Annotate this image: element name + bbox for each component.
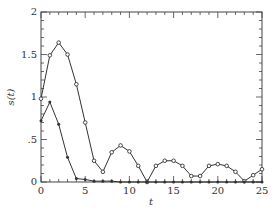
data-point: [207, 164, 211, 168]
data-point: [199, 181, 202, 184]
data-point: [216, 162, 220, 166]
data-series: [39, 41, 264, 184]
data-point: [261, 181, 264, 184]
data-point: [119, 181, 122, 184]
data-point: [181, 181, 184, 184]
data-point: [75, 82, 79, 86]
data-point: [57, 41, 61, 45]
data-point: [83, 121, 87, 125]
data-point: [128, 181, 131, 184]
x-tick-label: 5: [82, 185, 88, 196]
axis-ticks: 05101520250.511.52: [21, 6, 268, 196]
data-point: [181, 164, 185, 168]
data-point: [163, 159, 167, 163]
x-tick-label: 10: [123, 185, 136, 196]
data-point: [119, 144, 123, 148]
data-point: [225, 164, 229, 168]
data-point: [172, 181, 175, 184]
data-point: [48, 101, 51, 104]
plot-frame: [41, 12, 262, 182]
y-tick-label: 0: [31, 176, 37, 187]
line-chart: 05101520250.511.52 t s(t): [0, 0, 275, 211]
data-point: [92, 159, 96, 163]
data-point: [93, 180, 96, 183]
data-point: [48, 54, 52, 58]
data-point: [190, 181, 193, 184]
x-tick-label: 20: [211, 185, 224, 196]
y-tick-label: .5: [27, 134, 37, 145]
y-tick-label: 2: [31, 6, 37, 17]
data-point: [146, 181, 149, 184]
data-point: [216, 181, 219, 184]
data-point: [243, 181, 246, 184]
data-point: [101, 180, 104, 183]
data-point: [189, 174, 193, 178]
data-point: [101, 170, 105, 174]
data-point: [66, 53, 70, 57]
series-line: [41, 102, 262, 182]
x-tick-label: 25: [256, 185, 269, 196]
data-point: [198, 174, 202, 178]
data-point: [136, 164, 140, 168]
data-point: [110, 150, 114, 154]
data-point: [234, 181, 237, 184]
y-tick-label: 1.5: [21, 49, 37, 60]
data-point: [163, 181, 166, 184]
plot-border: [41, 12, 262, 182]
x-tick-label: 15: [167, 185, 180, 196]
data-point: [251, 173, 255, 177]
data-point: [57, 123, 60, 126]
x-tick-label: 0: [38, 185, 44, 196]
data-point: [40, 119, 43, 122]
y-axis-label: s(t): [5, 88, 16, 105]
y-tick-label: 1: [31, 91, 37, 102]
data-point: [252, 181, 255, 184]
data-point: [260, 167, 264, 171]
data-point: [66, 156, 69, 159]
data-point: [39, 97, 43, 101]
series-line: [41, 43, 262, 182]
data-point: [225, 181, 228, 184]
data-point: [154, 181, 157, 184]
data-point: [84, 178, 87, 181]
data-point: [110, 180, 113, 183]
data-point: [154, 164, 158, 168]
data-point: [128, 150, 132, 154]
data-point: [137, 181, 140, 184]
data-point: [234, 170, 238, 174]
x-axis-label: t: [149, 196, 154, 207]
data-point: [172, 159, 176, 163]
data-point: [207, 181, 210, 184]
data-point: [75, 177, 78, 180]
